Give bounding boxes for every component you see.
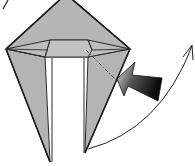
- corner-mark: [3, 0, 8, 9]
- origami-model: [6, 0, 130, 162]
- push-arrow-icon: [117, 62, 162, 101]
- center-gap: [52, 58, 84, 160]
- origami-diagram: [0, 0, 195, 166]
- cap-center: [45, 40, 92, 57]
